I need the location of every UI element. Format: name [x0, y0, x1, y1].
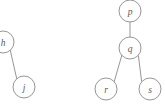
edge-h-to-j [10, 50, 16, 78]
node-p-label: p [127, 7, 133, 17]
right-fragment: p q r s [95, 0, 161, 100]
node-s[interactable]: s [139, 78, 161, 100]
node-r[interactable]: r [95, 78, 117, 100]
node-q[interactable]: q [119, 37, 141, 59]
node-r-label: r [104, 85, 108, 95]
node-h[interactable]: h [0, 31, 14, 53]
edge-q-to-r [114, 55, 122, 81]
node-q-label: q [128, 44, 133, 54]
node-h-label: h [1, 38, 6, 48]
edge-q-to-s [138, 56, 141, 81]
left-fragment: h j [0, 31, 35, 98]
node-s-label: s [148, 85, 152, 95]
diagram-canvas: h j p q r s [0, 0, 165, 108]
tree-diagram: h j p q r s [0, 0, 165, 108]
node-j[interactable]: j [13, 76, 35, 98]
node-p[interactable]: p [119, 0, 141, 22]
